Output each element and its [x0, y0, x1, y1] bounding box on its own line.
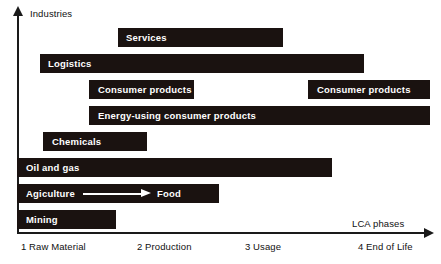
x-tick-label-end-of-life: 4 End of Life [358, 241, 413, 252]
bar-label-consumer-products-production: Consumer products [89, 84, 192, 95]
bar-consumer-products-production: Consumer products [89, 80, 194, 99]
bar-label-logistics: Logistics [40, 58, 92, 69]
x-axis-arrowhead-icon [424, 228, 434, 238]
x-axis-line [17, 232, 427, 234]
bar-logistics: Logistics [40, 54, 364, 73]
bar-label-consumer-products-end-of-life: Consumer products [308, 84, 411, 95]
bar-services: Services [118, 28, 283, 47]
x-tick-label-usage: 3 Usage [245, 241, 281, 252]
bar-label-chemicals: Chemicals [43, 136, 101, 147]
bar-mining: Mining [17, 210, 116, 229]
x-tick-label-production: 2 Production [137, 241, 192, 252]
bar-label-services: Services [118, 32, 167, 43]
bar-agiculture-food: Agiculture Food [17, 184, 219, 203]
y-axis-arrowhead-icon [13, 6, 23, 16]
arrow-right-icon [83, 189, 151, 198]
y-axis-label: Industries [30, 8, 72, 19]
bar-chemicals: Chemicals [43, 132, 147, 151]
bar-consumer-products-end-of-life: Consumer products [308, 80, 430, 99]
bar-energy-using-consumer-products: Energy-using consumer products [89, 106, 430, 125]
x-tick-label-raw-material: 1 Raw Material [21, 241, 86, 252]
lca-industries-chart: Industries LCA phases Services Logistics… [0, 0, 441, 264]
bar-label-mining: Mining [17, 214, 58, 225]
bar-label-agiculture: Agiculture [17, 188, 75, 199]
bar-oil-and-gas: Oil and gas [17, 158, 332, 177]
bar-label-food: Food [157, 188, 181, 199]
x-axis-label: LCA phases [352, 218, 404, 229]
bar-label-oil-and-gas: Oil and gas [17, 162, 79, 173]
bar-label-energy-using-consumer-products: Energy-using consumer products [89, 110, 256, 121]
